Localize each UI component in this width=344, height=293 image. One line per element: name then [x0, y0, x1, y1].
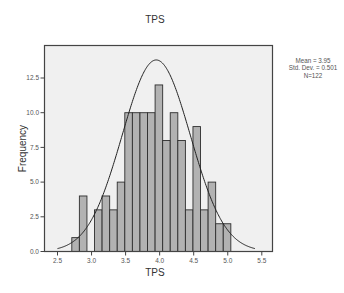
- histogram-bar: [185, 210, 193, 252]
- y-tick-label: 2.5: [30, 213, 39, 220]
- y-tick-label: 7.5: [30, 144, 39, 151]
- histogram-bar: [223, 224, 231, 252]
- histogram-bar: [117, 182, 125, 251]
- histogram-bar: [155, 85, 163, 252]
- y-axis: 0.02.55.07.510.012.5: [26, 74, 44, 255]
- x-tick-label: 3.0: [87, 257, 96, 264]
- histogram-bar: [193, 127, 201, 252]
- histogram-bar: [95, 210, 103, 252]
- histogram-bar: [79, 196, 87, 252]
- statistics-legend: Mean = 3.95 Std. Dev. = 0.501 N=122: [284, 57, 342, 79]
- x-axis-label: TPS: [130, 267, 180, 278]
- histogram-bar: [208, 182, 216, 251]
- n-stat: N=122: [284, 72, 342, 79]
- histogram-chart: 2.53.03.54.04.55.05.5 0.02.55.07.510.012…: [0, 0, 344, 293]
- histogram-bar: [216, 224, 224, 252]
- x-axis: 2.53.03.54.04.55.05.5: [53, 252, 267, 264]
- y-tick-label: 12.5: [26, 74, 39, 81]
- histogram-bar: [125, 113, 133, 252]
- y-tick-label: 5.0: [30, 178, 39, 185]
- histogram-bar: [102, 196, 110, 252]
- histogram-bar: [201, 210, 209, 252]
- y-tick-label: 0.0: [30, 248, 39, 255]
- x-tick-label: 5.0: [223, 257, 232, 264]
- x-tick-label: 4.0: [155, 257, 164, 264]
- x-tick-label: 5.5: [257, 257, 266, 264]
- y-tick-label: 10.0: [26, 109, 39, 116]
- histogram-bar: [140, 113, 148, 252]
- histogram-bar: [132, 113, 140, 252]
- mean-stat: Mean = 3.95: [284, 57, 342, 64]
- histogram-bar: [148, 113, 156, 252]
- x-tick-label: 2.5: [53, 257, 62, 264]
- chart-title: TPS: [120, 14, 190, 25]
- histogram-bar: [110, 210, 118, 252]
- histogram-bar: [178, 140, 186, 251]
- y-axis-label: Frequency: [17, 119, 28, 179]
- histogram-bar: [163, 140, 171, 251]
- histogram-bar: [170, 113, 178, 252]
- x-tick-label: 4.5: [189, 257, 198, 264]
- x-tick-label: 3.5: [121, 257, 130, 264]
- std-dev-stat: Std. Dev. = 0.501: [284, 64, 342, 71]
